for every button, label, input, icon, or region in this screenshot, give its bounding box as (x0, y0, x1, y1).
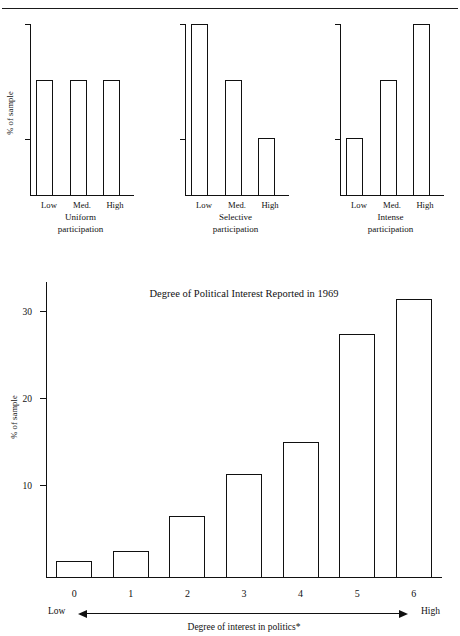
panel-uniform-caption-line2: participation (8, 224, 153, 236)
bar-uniform-med (70, 80, 87, 194)
bar-interest-1 (113, 551, 149, 577)
main-slot-2 (159, 282, 216, 577)
main-slot-6 (385, 282, 442, 577)
bar-interest-5 (339, 334, 375, 577)
panel-intense-caption-line2: participation (318, 224, 460, 236)
bar-uniform-high (103, 80, 120, 194)
bar-intense-low (346, 138, 363, 195)
main-y-axis-label: % of sample (9, 387, 19, 447)
panel-selective-ytick-upper (180, 24, 186, 25)
panel-intense-caption-line1: Intense (318, 212, 460, 224)
panel-uniform-caption: Uniform participation (8, 212, 153, 235)
main-slot-1 (103, 282, 160, 577)
bar-interest-6 (396, 299, 432, 576)
main-x-axis-label: Degree of interest in politics* (46, 622, 442, 632)
panel-uniform-y-axis (30, 24, 31, 196)
main-bars (46, 282, 442, 577)
main-xtick-0: 0 (46, 588, 103, 599)
xtick-intense-high: High (412, 200, 438, 210)
panel-uniform-ytick-lower (25, 139, 31, 140)
header-rule (2, 8, 458, 9)
panel-selective-plot (185, 24, 277, 196)
bar-selective-high (258, 138, 275, 195)
panel-selective-caption: Selective participation (163, 212, 308, 235)
xtick-intense-low: Low (346, 200, 372, 210)
panel-uniform: Low Med. High Uniform participation (8, 24, 153, 244)
panel-selective-y-axis (185, 24, 186, 196)
xtick-uniform-low: Low (36, 200, 62, 210)
panel-main: % of sample Degree of Political Interest… (0, 272, 460, 629)
panel-intense-ytick-lower (335, 139, 341, 140)
panel-selective-ytick-lower (180, 139, 186, 140)
panel-uniform-bars (36, 24, 120, 195)
main-ytick-label-30: 30 (23, 307, 33, 317)
panel-selective-bars (191, 24, 275, 195)
panel-intense: Low Med. High Intense participation (318, 24, 460, 244)
main-xtick-5: 5 (329, 588, 386, 599)
main-plot-area: Degree of Political Interest Reported in… (46, 282, 442, 578)
main-ytick-label-10: 10 (23, 481, 33, 491)
panel-intense-x-axis (340, 195, 444, 196)
main-xtick-1: 1 (103, 588, 160, 599)
main-slot-4 (272, 282, 329, 577)
panel-intense-y-axis (340, 24, 341, 196)
xtick-intense-med: Med. (379, 200, 405, 210)
panel-intense-bars (346, 24, 430, 195)
main-xtick-4: 4 (272, 588, 329, 599)
panel-selective-x-axis (185, 195, 289, 196)
main-xtick-labels: 0 1 2 3 4 5 6 (46, 588, 442, 599)
xtick-selective-high: High (257, 200, 283, 210)
running-header (8, 0, 452, 8)
xtick-selective-low: Low (191, 200, 217, 210)
panel-selective-caption-line2: participation (163, 224, 308, 236)
panel-intense-ytick-upper (335, 24, 341, 25)
panel-intense-xtick-labels: Low Med. High (346, 200, 438, 210)
panel-intense-plot (340, 24, 432, 196)
bar-intense-med (380, 80, 397, 194)
bar-selective-med (225, 80, 242, 194)
panel-uniform-x-axis (30, 195, 134, 196)
bar-selective-low (191, 24, 208, 195)
panel-selective-xtick-labels: Low Med. High (191, 200, 283, 210)
xtick-uniform-high: High (102, 200, 128, 210)
bar-interest-2 (169, 516, 205, 577)
panel-uniform-xtick-labels: Low Med. High (36, 200, 128, 210)
xtick-selective-med: Med. (224, 200, 250, 210)
panel-uniform-plot (30, 24, 122, 196)
axis-high-label: High (421, 606, 440, 616)
bar-interest-4 (283, 442, 319, 576)
bar-uniform-low (36, 80, 53, 194)
main-slot-3 (216, 282, 273, 577)
bar-intense-high (413, 24, 430, 195)
main-xtick-2: 2 (159, 588, 216, 599)
xtick-uniform-med: Med. (69, 200, 95, 210)
panel-intense-caption: Intense participation (318, 212, 460, 235)
panel-uniform-caption-line1: Uniform (8, 212, 153, 224)
main-slot-0 (46, 282, 103, 577)
panel-selective: Low Med. High Selective participation (163, 24, 308, 244)
main-xtick-3: 3 (216, 588, 273, 599)
main-axis-footer: Low High Degree of interest in politics* (46, 606, 442, 636)
panel-uniform-ytick-upper (25, 24, 31, 25)
double-arrow-icon (86, 613, 400, 614)
main-xtick-6: 6 (385, 588, 442, 599)
bar-interest-3 (226, 474, 262, 576)
axis-low-label: Low (48, 606, 65, 616)
main-ytick-label-20: 20 (23, 394, 33, 404)
panel-selective-caption-line1: Selective (163, 212, 308, 224)
main-slot-5 (329, 282, 386, 577)
bar-interest-0 (56, 561, 92, 577)
main-x-axis (46, 577, 442, 578)
